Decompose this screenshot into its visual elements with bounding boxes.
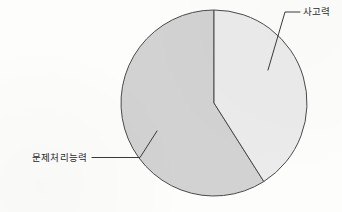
pie-chart-svg: 사고력 문제처리능력 bbox=[0, 0, 342, 212]
pie-label-thinking: 사고력 bbox=[303, 6, 331, 17]
pie-label-problem-solving: 문제처리능력 bbox=[32, 152, 87, 163]
pie-chart-figure: 사고력 문제처리능력 bbox=[0, 0, 342, 212]
